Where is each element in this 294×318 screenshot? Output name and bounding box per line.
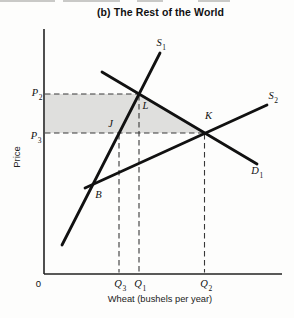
s1-curve (62, 53, 160, 245)
point-label-k: K (202, 110, 215, 121)
point-label-j: J (104, 118, 117, 129)
s1-curve-label: S1 (152, 37, 170, 48)
y-tick-p2: P2 (17, 87, 42, 98)
figure-container: (b) The Rest of the World (0, 0, 294, 318)
point-label-l: L (139, 100, 152, 111)
x-tick-q1: Q1 (127, 278, 153, 289)
d1-curve-label: D1 (248, 165, 266, 176)
diagram-svg (0, 0, 294, 318)
point-label-b: B (92, 189, 105, 200)
x-axis-title: Wheat (bushels per year) (60, 294, 260, 304)
x-tick-q2: Q2 (193, 278, 219, 289)
y-axis-title: Price (10, 126, 24, 188)
origin-label: 0 (31, 278, 46, 289)
shaded-region (45, 94, 205, 133)
s2-curve-label: S2 (264, 90, 282, 101)
